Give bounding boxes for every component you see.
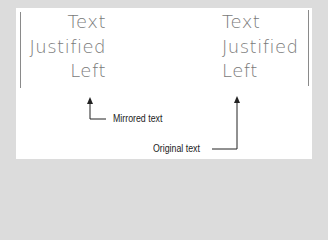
mirrored-arrow-icon — [87, 97, 106, 119]
original-arrow-icon — [212, 96, 240, 149]
mirrored-text-label: Mirrored text — [113, 113, 162, 124]
original-text-label: Original text — [153, 143, 200, 154]
